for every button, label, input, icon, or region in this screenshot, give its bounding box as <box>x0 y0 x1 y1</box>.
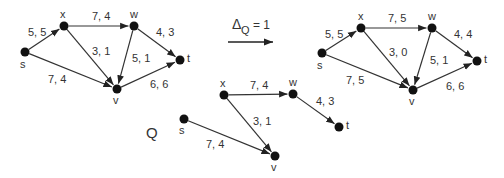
node-t <box>473 57 482 66</box>
edge-label-w-t: 4, 3 <box>156 26 174 38</box>
node-label-v: v <box>409 95 415 107</box>
node-s <box>180 115 189 124</box>
flow-diagram: 5, 57, 43, 17, 45, 14, 36, 6sxwtv5, 57, … <box>0 0 504 178</box>
edge-label-x-w: 7, 5 <box>388 12 406 24</box>
edge-s-v <box>326 55 408 88</box>
edge-label-v-t: 6, 6 <box>150 78 168 90</box>
node-w <box>130 22 139 31</box>
edge-label-v-t: 6, 6 <box>446 80 464 92</box>
node-s <box>318 49 327 58</box>
edge-label-s-x: 5, 5 <box>28 26 46 38</box>
graph-before: 5, 57, 43, 17, 45, 14, 36, 6sxwtv <box>20 8 190 106</box>
node-label-w: w <box>129 8 138 20</box>
edge-label-w-v: 5, 1 <box>132 52 150 64</box>
node-w <box>428 24 437 33</box>
node-s <box>21 48 30 57</box>
node-x <box>357 24 366 33</box>
node-w <box>289 90 298 99</box>
node-label-w: w <box>427 10 436 22</box>
edge-w-v <box>118 30 132 83</box>
edge-label-x-v: 3, 1 <box>92 45 110 57</box>
edge-label-x-v: 3, 0 <box>389 46 407 58</box>
node-label-s: s <box>179 124 185 136</box>
node-label-t: t <box>187 52 190 64</box>
edge-x-v <box>67 29 114 84</box>
node-v <box>409 86 418 95</box>
node-v <box>113 85 122 94</box>
node-label-w: w <box>288 76 297 88</box>
node-v <box>271 152 280 161</box>
q-graph-label: Q <box>146 124 158 141</box>
edge-x-v <box>364 31 410 85</box>
node-label-t: t <box>484 53 487 65</box>
delta-symbol: Δ <box>232 16 241 32</box>
node-label-s: s <box>20 58 26 70</box>
edge-label-s-x: 5, 5 <box>325 28 343 40</box>
edge-label-x-w: 7, 4 <box>250 79 268 91</box>
delta-subscript: Q <box>241 24 250 36</box>
node-x <box>60 22 69 31</box>
node-label-x: x <box>220 77 226 89</box>
edge-label-s-v: 7, 5 <box>346 74 364 86</box>
edge-w-v <box>415 32 431 84</box>
node-t <box>335 123 344 132</box>
edge-label-s-v: 7, 4 <box>48 73 66 85</box>
edge-label-w-v: 5, 1 <box>430 54 448 66</box>
node-x <box>220 91 229 100</box>
node-label-x: x <box>60 8 66 20</box>
node-label-t: t <box>346 119 349 131</box>
edge-label-s-v: 7, 4 <box>206 138 224 150</box>
graphs-layer: 5, 57, 43, 17, 45, 14, 36, 6sxwtv5, 57, … <box>20 8 487 173</box>
node-t <box>176 56 185 65</box>
node-label-s: s <box>317 59 323 71</box>
node-label-v: v <box>113 94 119 106</box>
delta-transition: Δ Q = 1 <box>228 16 273 42</box>
graph-after: 5, 57, 53, 07, 55, 14, 46, 6sxwtv <box>317 10 487 107</box>
edge-label-x-v: 3, 1 <box>253 115 271 127</box>
graph-Q: 7, 43, 17, 44, 3sxwtv <box>179 76 349 173</box>
edge-x-w <box>228 94 287 95</box>
delta-equals: = 1 <box>253 18 270 32</box>
edge-label-w-t: 4, 3 <box>316 95 334 107</box>
node-label-x: x <box>358 10 364 22</box>
edge-s-v <box>29 54 112 87</box>
node-label-v: v <box>271 161 277 173</box>
edge-label-x-w: 7, 4 <box>92 10 110 22</box>
edge-label-w-t: 4, 4 <box>454 28 472 40</box>
